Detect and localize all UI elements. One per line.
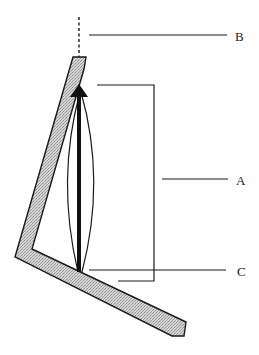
bracket-a [97, 85, 154, 281]
lens-outline-right [81, 92, 94, 272]
label-b: B [235, 29, 244, 44]
label-c: C [237, 264, 246, 279]
label-a: A [236, 173, 246, 188]
plate-shape [15, 57, 186, 336]
diagram-canvas: B A C [0, 0, 259, 355]
